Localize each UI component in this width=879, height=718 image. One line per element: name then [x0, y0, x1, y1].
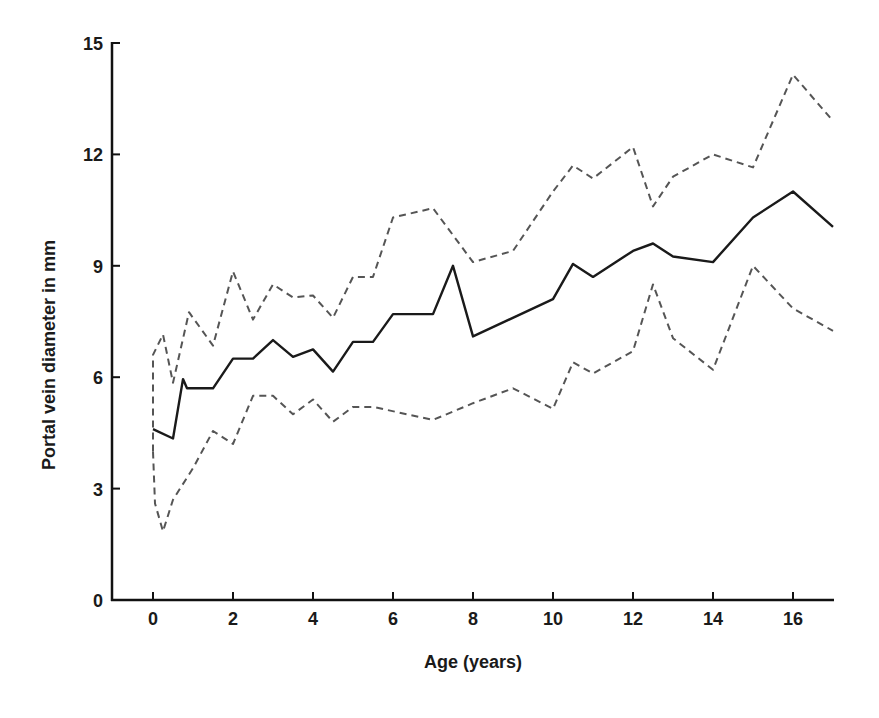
- x-tick-label: 10: [543, 609, 563, 629]
- x-axis-title: Age (years): [424, 652, 522, 672]
- y-tick-label: 12: [83, 145, 103, 165]
- plot-lines: [153, 75, 833, 532]
- x-tick-label: 6: [388, 609, 398, 629]
- y-ticks: 03691215: [83, 34, 120, 611]
- x-ticks: 0246810121416: [148, 592, 803, 629]
- y-tick-label: 6: [93, 368, 103, 388]
- y-tick-label: 0: [93, 591, 103, 611]
- y-tick-label: 15: [83, 34, 103, 54]
- y-tick-label: 3: [93, 480, 103, 500]
- y-axis-title: Portal vein diameter in mm: [39, 240, 59, 470]
- mean-line: [153, 192, 833, 439]
- x-tick-label: 12: [623, 609, 643, 629]
- line-chart: 03691215 0246810121416 Age (years) Porta…: [0, 0, 879, 718]
- x-tick-label: 2: [228, 609, 238, 629]
- axes: 03691215 0246810121416: [83, 34, 834, 629]
- x-tick-label: 4: [308, 609, 318, 629]
- x-tick-label: 14: [703, 609, 723, 629]
- x-tick-label: 8: [468, 609, 478, 629]
- y-tick-label: 9: [93, 257, 103, 277]
- x-tick-label: 16: [783, 609, 803, 629]
- lower-bound-line: [153, 266, 833, 532]
- x-tick-label: 0: [148, 609, 158, 629]
